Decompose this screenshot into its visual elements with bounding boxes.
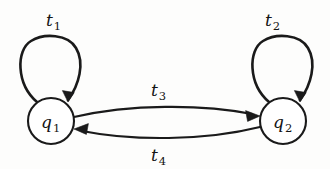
edge-t3-path: [74, 107, 252, 117]
edge-t3: [74, 107, 260, 122]
transition-label-t2: t2: [265, 10, 280, 33]
edge-t4-path: [82, 127, 260, 138]
transition-label-t4: t4: [151, 145, 166, 168]
transition-label-t3: t3: [151, 80, 166, 103]
edge-t4-arrowhead: [74, 124, 88, 135]
state-node-q1[interactable]: q1: [28, 98, 74, 144]
self-loop-t1: [20, 36, 80, 102]
edge-t3-arrowhead: [246, 111, 260, 122]
transition-label-t1: t1: [46, 10, 61, 33]
state-node-q2[interactable]: q2: [260, 98, 306, 144]
edge-t4: [74, 124, 260, 138]
self-loop-t2-arrowhead: [294, 91, 306, 102]
self-loop-t1-arrowhead: [62, 91, 74, 102]
state-transition-diagram: q1 q2 t1 t2 t3 t4: [0, 0, 330, 169]
diagram-canvas: q1 q2 t1 t2 t3 t4: [0, 0, 330, 169]
self-loop-t2: [252, 36, 312, 102]
